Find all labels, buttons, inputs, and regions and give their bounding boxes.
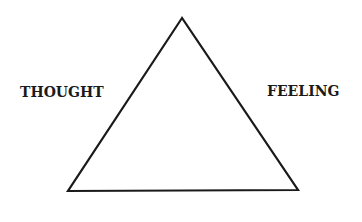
- triangle-shape: [0, 0, 362, 222]
- diagram-canvas: THOUGHT FEELING: [0, 0, 362, 222]
- label-thought: THOUGHT: [20, 84, 104, 100]
- label-feeling: FEELING: [267, 83, 339, 99]
